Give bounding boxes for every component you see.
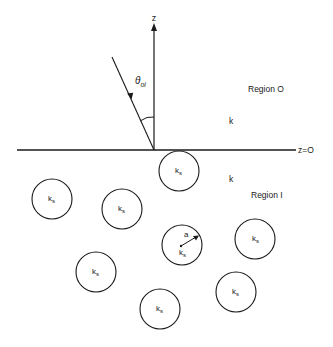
scatterer-label: ks: [175, 166, 182, 176]
region-1-wavenumber: k: [229, 174, 234, 184]
scatterer-label: ks: [179, 248, 186, 258]
z-axis-label: z: [152, 13, 157, 23]
interface-plane: z=O: [17, 145, 314, 155]
radius-label: a: [184, 230, 189, 239]
region-0-label: Region O: [248, 84, 284, 94]
scatterer-label: ks: [118, 204, 125, 214]
scatterer-with-radius: a ks: [162, 225, 202, 265]
arrow-up-icon: [151, 23, 157, 31]
scatterer-label: ks: [232, 287, 239, 297]
region-0-wavenumber: k: [229, 116, 234, 126]
scatterer: ks: [102, 189, 142, 229]
scatterer: ks: [76, 252, 116, 292]
incident-ray: θoi: [112, 57, 154, 150]
region-1-label: Region I: [251, 190, 283, 200]
scatterer-group: ks ks ks a ks ks ks ks: [32, 151, 275, 329]
scatterer-label: ks: [156, 304, 163, 314]
scatterer-label: ks: [92, 267, 99, 277]
z-axis: z: [151, 13, 157, 150]
scattering-geometry-diagram: z z=O θoi Region O k k Region I ks ks ks: [0, 0, 333, 347]
scatterer: ks: [32, 179, 72, 219]
scatterer-label: ks: [48, 194, 55, 204]
incident-ray-line: [112, 57, 154, 150]
scatterer: ks: [159, 151, 199, 191]
scatterer: ks: [216, 272, 256, 312]
angle-arc: [140, 117, 154, 121]
scatterer: ks: [140, 289, 180, 329]
scatterer: ks: [235, 219, 275, 259]
angle-subscript: oi: [140, 81, 146, 88]
scatterer-label: ks: [252, 234, 259, 244]
angle-label: θoi: [135, 75, 146, 88]
interface-label: z=O: [298, 145, 314, 155]
